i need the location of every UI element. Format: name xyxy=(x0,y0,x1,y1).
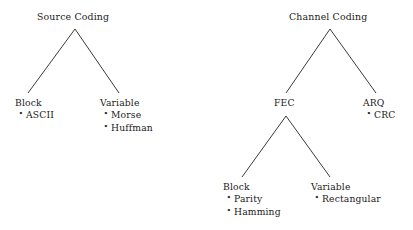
list-item: • Morse xyxy=(111,110,153,119)
node-source-coding: Source Coding xyxy=(37,12,109,21)
bullet-icon: • xyxy=(104,110,109,118)
edge-source-to-variable xyxy=(75,29,119,93)
list-item-label: ASCII xyxy=(26,109,54,120)
edge-fec-to-variable xyxy=(286,116,330,177)
list-item-label: Morse xyxy=(111,109,141,120)
node-channel-coding: Channel Coding xyxy=(289,12,367,21)
leaf-list-source-block: • ASCII xyxy=(15,110,54,119)
leaf-list-arq: • CRC xyxy=(363,110,395,119)
list-item: • Hamming xyxy=(234,207,281,216)
list-item: • Huffman xyxy=(111,123,153,132)
edge-fec-to-block xyxy=(242,116,286,177)
leaf-list-source-variable: • Morse • Huffman xyxy=(100,110,153,132)
node-fec: FEC xyxy=(274,98,295,107)
node-fec-block: Block • Parity • Hamming xyxy=(223,182,281,220)
node-label-fec: FEC xyxy=(274,98,295,107)
bullet-icon: • xyxy=(315,194,320,202)
list-item: • ASCII xyxy=(26,110,54,119)
list-item-label: Parity xyxy=(234,193,262,204)
list-item-label: Huffman xyxy=(111,122,153,133)
node-label-channel-coding: Channel Coding xyxy=(289,12,367,21)
list-item: • CRC xyxy=(374,110,395,119)
node-arq: ARQ • CRC xyxy=(363,98,395,123)
leaf-list-fec-variable: • Rectangular xyxy=(311,194,381,203)
bullet-icon: • xyxy=(227,207,232,215)
node-fec-variable: Variable • Rectangular xyxy=(311,182,381,207)
node-label-source-block: Block xyxy=(15,98,54,107)
edge-channel-to-fec xyxy=(286,29,330,93)
bullet-icon: • xyxy=(367,110,372,118)
list-item: • Rectangular xyxy=(322,194,381,203)
node-source-variable: Variable • Morse • Huffman xyxy=(100,98,153,136)
node-label-fec-block: Block xyxy=(223,182,281,191)
leaf-list-fec-block: • Parity • Hamming xyxy=(223,194,281,216)
edge-channel-to-arq xyxy=(330,29,376,93)
edge-source-to-block xyxy=(28,29,75,93)
list-item: • Parity xyxy=(234,194,281,203)
node-label-source-coding: Source Coding xyxy=(37,12,109,21)
bullet-icon: • xyxy=(19,110,24,118)
list-item-label: Hamming xyxy=(234,206,281,217)
node-label-source-variable: Variable xyxy=(100,98,153,107)
node-label-fec-variable: Variable xyxy=(311,182,381,191)
bullet-icon: • xyxy=(104,123,109,131)
coding-taxonomy-diagram: Source Coding Block • ASCII Variable • M… xyxy=(0,0,413,230)
node-source-block: Block • ASCII xyxy=(15,98,54,123)
bullet-icon: • xyxy=(227,194,232,202)
list-item-label: CRC xyxy=(374,109,395,120)
list-item-label: Rectangular xyxy=(322,193,381,204)
node-label-arq: ARQ xyxy=(363,98,395,107)
